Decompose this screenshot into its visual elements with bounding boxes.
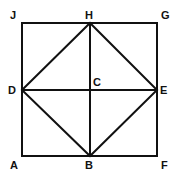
label-C: C xyxy=(93,76,101,88)
label-G: G xyxy=(161,9,170,21)
label-J: J xyxy=(10,9,16,21)
label-H: H xyxy=(85,9,93,21)
geometry-diagram: J H G D C E A B F xyxy=(0,0,176,176)
label-D: D xyxy=(8,84,16,96)
label-F: F xyxy=(161,159,168,171)
label-A: A xyxy=(10,159,18,171)
label-E: E xyxy=(160,84,167,96)
label-B: B xyxy=(85,159,93,171)
